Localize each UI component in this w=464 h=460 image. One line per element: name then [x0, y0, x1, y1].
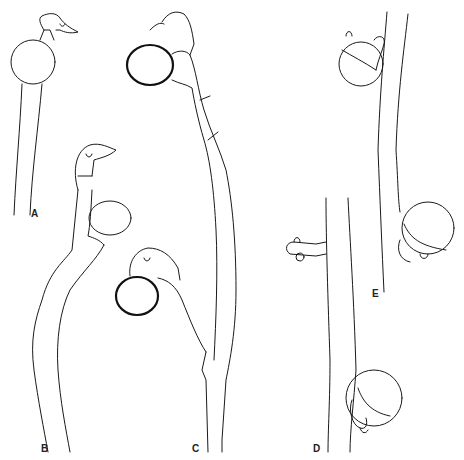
panel-a-drawing — [11, 14, 78, 215]
panel-c-drawing — [116, 12, 236, 452]
panel-label-d: D — [313, 443, 320, 454]
panel-label-a: A — [31, 208, 38, 219]
figure-drawing — [0, 0, 464, 460]
panel-label-c: C — [192, 443, 199, 454]
panel-d-drawing — [287, 198, 402, 452]
panel-label-e: E — [372, 288, 379, 299]
figure: A B C D E — [0, 0, 464, 460]
panel-label-b: B — [41, 443, 48, 454]
panel-e-drawing — [339, 12, 454, 292]
